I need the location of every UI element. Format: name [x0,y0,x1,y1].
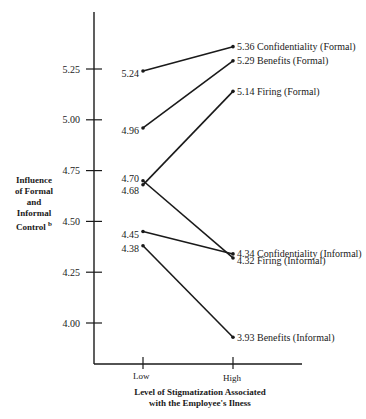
data-point [141,69,145,73]
series-line [143,91,233,184]
low-value-label: 4.45 [122,229,140,240]
data-point [231,335,235,339]
series-line [143,61,233,128]
y-tick-label: 5.25 [63,64,81,75]
high-value-series-label: 5.29 Benefits (Formal) [237,55,328,67]
series-benefits-informal [141,244,235,339]
data-point [141,183,145,187]
series-confidentiality-informal [141,230,235,256]
high-value-series-label: 3.93 Benefits (Informal) [237,332,334,344]
series-line [143,47,233,71]
x-ticks [143,357,233,369]
series-line [143,246,233,337]
data-point [231,252,235,256]
footnote-marker: b [48,220,52,228]
y-axis-label-line: Control b [2,219,66,233]
low-value-label: 4.70 [122,173,140,184]
data-point [231,59,235,63]
x-tick-label-high: High [223,373,241,383]
y-axis-label-line: Informal [2,208,66,219]
low-value-label: 4.96 [122,125,140,136]
series-line [143,232,233,254]
y-axis-label: Influence of Formal and Informal Control… [2,175,66,233]
y-axis-label-line: and [2,197,66,208]
series-benefits-formal [141,59,235,130]
data-point [141,244,145,248]
series-firing-informal [141,179,235,260]
series-lines [141,45,235,339]
low-value-label: 4.68 [122,185,140,196]
low-value-label: 4.38 [122,243,140,254]
x-axis-label: Level of Stigmatization Associated with … [80,387,320,409]
y-tick-label: 4.00 [63,318,81,329]
y-ticks: 4.004.254.504.755.005.25 [63,64,103,329]
y-axis-label-line: Influence [2,175,66,186]
data-point [231,256,235,260]
y-tick-label: 5.00 [63,114,81,125]
y-tick-label: 4.25 [63,267,81,278]
low-value-label: 5.24 [122,68,140,79]
series-firing-formal [141,90,235,187]
x-axis-label-line: Level of Stigmatization Associated [80,387,320,398]
high-value-series-label: 4.32 Firing (Informal) [237,255,326,267]
data-point [141,126,145,130]
x-tick-label-low: Low [133,371,150,381]
data-point [231,45,235,49]
series-confidentiality-formal [141,45,235,73]
x-axis-label-line: with the Employee's Ilness [80,398,320,409]
y-axis-label-line: of Formal [2,186,66,197]
series-line [143,181,233,258]
data-point [231,90,235,94]
high-value-series-label: 5.14 Firing (Formal) [237,86,320,98]
data-point [141,179,145,183]
data-point [141,230,145,234]
high-value-series-label: 5.36 Confidentiality (Formal) [237,41,356,53]
